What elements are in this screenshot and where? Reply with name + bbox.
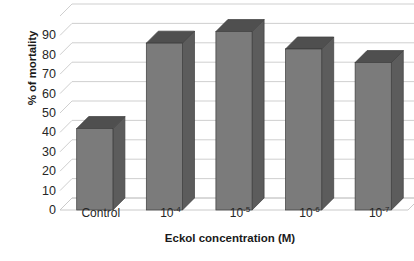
x-tick-exponent: -7 bbox=[382, 205, 389, 214]
x-axis-tick-labels: Control10-410-510-610-7 bbox=[0, 206, 414, 226]
bar-Control bbox=[77, 117, 125, 210]
x-tick-exponent: -6 bbox=[313, 205, 320, 214]
bar-10-7 bbox=[355, 51, 403, 210]
bar-10-6 bbox=[286, 37, 334, 210]
bar-10-4 bbox=[146, 31, 194, 210]
x-tick-label: 10-4 bbox=[130, 206, 210, 220]
x-tick-label: 10-5 bbox=[200, 206, 280, 220]
x-tick-label: 10-7 bbox=[339, 206, 414, 220]
x-tick-exponent: -4 bbox=[174, 205, 181, 214]
bar-chart: · · · · % of mortality 01020304050607080… bbox=[0, 0, 414, 261]
x-tick-label: Control bbox=[61, 206, 141, 220]
bar-series bbox=[77, 20, 404, 210]
x-tick-exponent: -5 bbox=[243, 205, 250, 214]
x-axis-title: Eckol concentration (M) bbox=[60, 232, 400, 244]
x-tick-label: 10-6 bbox=[270, 206, 350, 220]
bar-10-5 bbox=[216, 20, 264, 210]
